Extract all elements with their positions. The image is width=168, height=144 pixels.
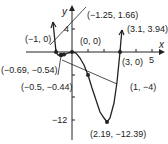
label-219: (2.19, −12.39) (90, 129, 146, 139)
point-neg05 (62, 53, 66, 57)
point-0-0 (70, 50, 74, 54)
x-axis-label: x (158, 39, 165, 50)
label-1-neg4: (1, −4) (130, 82, 156, 92)
point-1-neg4 (86, 73, 90, 77)
leader-line-neg05 (58, 56, 61, 75)
y-axis-label: y (61, 6, 68, 17)
x-tick-5: 5 (149, 55, 154, 65)
label-neg05: (−0.5, −0.44) (21, 82, 73, 92)
label-neg069: (−0.69, −0.54) (1, 65, 58, 75)
label-neg125: (−1.25, 1.66) (87, 10, 138, 20)
label-31: (3.1, 3.94) (127, 24, 168, 34)
y-tick-neg12: −12 (52, 115, 67, 125)
point-neg1-0 (54, 50, 58, 54)
label-neg1-0: (−1, 0) (25, 34, 51, 44)
point-219 (105, 120, 109, 124)
chart: x 5 y 4 −12 (−1, 0) (−0.69, −0.54) (−0.5… (0, 0, 168, 144)
label-3-0: (3, 0) (122, 57, 143, 67)
point-3-0 (118, 50, 122, 54)
label-0-0: (0, 0) (80, 36, 101, 46)
